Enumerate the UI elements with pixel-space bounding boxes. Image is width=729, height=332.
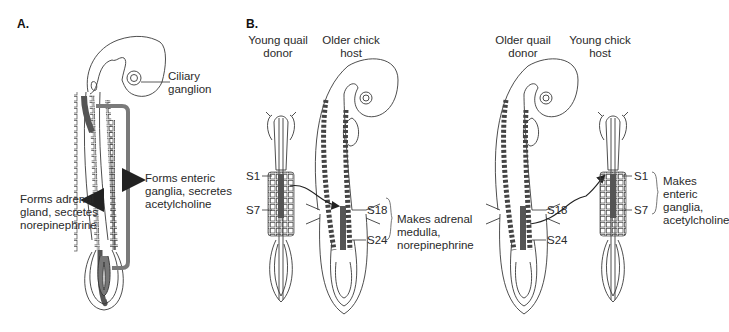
label-line: Forms adrenal [20,193,98,206]
adrenal-gland-label: Forms adrenal gland, secretes norepineph… [20,193,98,232]
label-line: Makes adrenal [397,213,474,226]
label-line: norepinephrine [20,219,98,232]
somite-s18-label: S18 [367,204,387,217]
older-quail-donor-somites [504,100,530,250]
label-line: Young quail [248,34,308,47]
label-line: Older chick [320,34,382,47]
brace-exp2 [652,172,658,214]
somite-s24-donor-label: S24 [547,234,567,247]
older-chick-host-embryo [306,59,398,314]
label-line: Makes [663,175,729,188]
label-line: Forms enteric [145,172,232,185]
label-line: norepinephrine [397,239,474,252]
adrenal-medulla-result-label: Makes adrenal medulla, norepinephrine [397,213,474,252]
somite-s7-label: S7 [246,204,260,217]
somite-s7-host-label: S7 [634,204,648,217]
enteric-ganglia-label: Forms enteric ganglia, secretes acetylch… [145,172,232,211]
older-quail-donor-embryo [486,59,578,314]
label-line: host [320,47,382,60]
young-quail-donor-label: Young quail donor [248,34,308,60]
label-line: ganglion [168,83,211,96]
label-line: acetylcholine [145,198,232,211]
somite-s1-host-label: S1 [634,170,648,183]
label-line: acetylcholine [663,214,729,227]
label-line: donor [248,47,308,60]
ciliary-ganglion-label: Ciliary ganglion [168,70,211,96]
somite-s1-label: S1 [246,170,260,183]
panel-b-label: B. [246,17,258,31]
older-chick-host-label: Older chick host [320,34,382,60]
label-line: medulla, [397,226,474,239]
somite-s18-donor-label: S18 [547,204,567,217]
label-line: Ciliary [168,70,211,83]
label-line: ganglia, secretes [145,185,232,198]
label-line: Young chick [567,34,633,47]
label-line: enteric [663,188,729,201]
label-line: host [567,47,633,60]
label-line: Older quail [492,34,554,47]
somite-s24-label: S24 [367,234,387,247]
young-chick-host-label: Young chick host [567,34,633,60]
label-line: donor [492,47,554,60]
label-line: gland, secretes [20,206,98,219]
panel-a-label: A. [17,17,29,31]
older-chick-host-somites [324,100,350,250]
label-line: ganglia, [663,201,729,214]
older-quail-donor-label: Older quail donor [492,34,554,60]
enteric-ganglia-result-label: Makes enteric ganglia, acetylcholine [663,175,729,227]
